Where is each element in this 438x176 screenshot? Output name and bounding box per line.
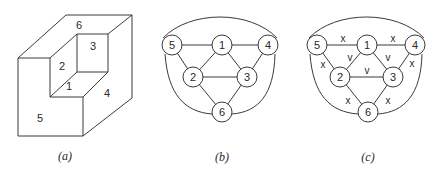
node-label-6: 6 bbox=[365, 106, 371, 118]
caption-b: (b) bbox=[215, 150, 229, 164]
caption-c: (c) bbox=[361, 150, 374, 164]
edge-label-2-6: x bbox=[346, 95, 351, 106]
edge-label-1-2: v bbox=[348, 52, 353, 63]
edge-inner-top-right bbox=[108, 15, 132, 34]
panel-a-solid: 1 2 3 4 5 6 bbox=[18, 15, 132, 136]
node-label-5: 5 bbox=[314, 39, 320, 51]
edge-label-1-4: x bbox=[391, 33, 396, 44]
edge-top-left bbox=[18, 15, 66, 58]
node-label-4: 4 bbox=[265, 39, 271, 51]
node-label-2: 2 bbox=[190, 71, 196, 83]
face-label-4: 4 bbox=[104, 87, 110, 99]
edge-floor-left bbox=[50, 72, 77, 97]
node-label-4: 4 bbox=[412, 39, 418, 51]
face-label-1: 1 bbox=[66, 80, 72, 92]
panel-b-graph: 5 1 4 2 3 6 bbox=[162, 17, 278, 122]
edge-label-3-6: x bbox=[386, 95, 391, 106]
node-label-3: 3 bbox=[244, 71, 250, 83]
node-label-3: 3 bbox=[390, 71, 396, 83]
edge-inner-top-left bbox=[50, 34, 77, 58]
edge-label-5-1: x bbox=[341, 33, 346, 44]
edge-label-4-3: x bbox=[410, 58, 415, 69]
face-label-2: 2 bbox=[59, 60, 65, 72]
node-label-5: 5 bbox=[169, 39, 175, 51]
edge-bottom-right bbox=[83, 98, 132, 136]
face-label-3: 3 bbox=[90, 40, 96, 52]
edge-label-5-2: x bbox=[321, 59, 326, 70]
panel-c-graph: 5 1 4 2 3 6 x x v v x x v x x bbox=[307, 17, 425, 122]
face-label-6: 6 bbox=[76, 19, 82, 31]
node-label-6: 6 bbox=[219, 106, 225, 118]
caption-a: (a) bbox=[58, 149, 72, 163]
node-label-1: 1 bbox=[364, 39, 370, 51]
edge-label-2-3: v bbox=[365, 65, 370, 76]
node-label-2: 2 bbox=[337, 71, 343, 83]
figure-canvas: 1 2 3 4 5 6 (a) 5 1 4 2 3 6 (b) bbox=[0, 0, 438, 176]
edge-label-1-3: v bbox=[386, 52, 391, 63]
node-label-1: 1 bbox=[219, 39, 225, 51]
face-label-5: 5 bbox=[37, 112, 43, 124]
